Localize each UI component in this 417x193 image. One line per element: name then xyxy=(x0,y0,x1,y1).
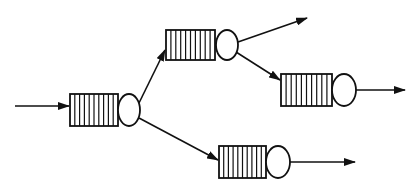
arrow-q2-to-q3 xyxy=(236,52,280,80)
arrow-q2-exit xyxy=(238,18,307,42)
nodes-layer xyxy=(70,30,356,178)
server-icon xyxy=(118,94,140,126)
arrow-q1-to-q2 xyxy=(139,50,165,103)
queue-1 xyxy=(70,94,140,126)
server-icon xyxy=(332,74,356,106)
arrow-q1-to-q4 xyxy=(139,118,218,160)
queueing-network-diagram xyxy=(0,0,417,193)
queue-4 xyxy=(219,146,290,178)
server-icon xyxy=(216,30,238,60)
queue-2 xyxy=(166,30,238,60)
queue-3 xyxy=(281,74,356,106)
server-icon xyxy=(266,146,290,178)
